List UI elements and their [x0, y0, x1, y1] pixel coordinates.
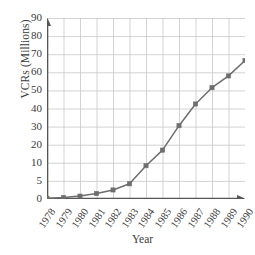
- y-axis-tick-label: 0: [18, 193, 42, 204]
- y-axis-tick-label: 20: [18, 139, 42, 150]
- y-axis-tick-label: 50: [18, 84, 42, 95]
- data-point-marker: [243, 58, 245, 62]
- data-point-marker: [193, 102, 197, 106]
- y-axis-tick-label: 5: [18, 175, 42, 186]
- plot-area: [47, 18, 245, 199]
- y-axis-tick-label: 30: [18, 121, 42, 132]
- data-point-marker: [144, 164, 148, 168]
- data-point-marker: [127, 182, 131, 186]
- chart-canvas: [47, 18, 245, 199]
- y-axis-tick-label: 70: [18, 48, 42, 59]
- y-axis-tick-label: 60: [18, 66, 42, 77]
- data-point-marker: [61, 195, 65, 199]
- data-point-marker: [47, 196, 49, 199]
- data-point-marker: [226, 74, 230, 78]
- data-point-marker: [160, 148, 164, 152]
- data-point-marker: [94, 191, 98, 195]
- y-axis-tick-label: 90: [18, 12, 42, 23]
- y-axis-tick-label: 10: [18, 157, 42, 168]
- y-axis-tick-label: 40: [18, 103, 42, 114]
- data-point-marker: [78, 194, 82, 198]
- data-point-marker: [177, 124, 181, 128]
- x-axis-arrow: [237, 195, 245, 199]
- data-point-marker: [111, 188, 115, 192]
- data-line-vcrs: [47, 61, 245, 199]
- chart-figure: VCRs (Millions) 05102030405060708090 197…: [0, 0, 255, 255]
- data-point-marker: [210, 86, 214, 90]
- y-axis-arrow: [47, 18, 51, 26]
- x-axis-title: Year: [40, 233, 245, 245]
- y-axis-tick-label: 80: [18, 30, 42, 41]
